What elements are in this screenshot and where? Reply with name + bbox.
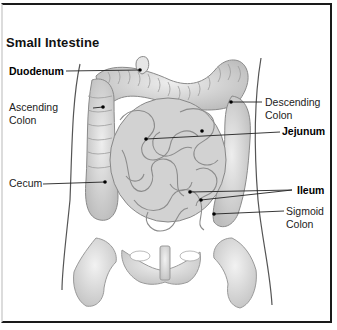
- label-ascending-colon: Ascending Colon: [9, 101, 58, 127]
- label-ascending-colon-line2: Colon: [9, 114, 58, 127]
- label-ileum: Ileum: [297, 184, 324, 197]
- label-descending-colon-line2: Colon: [265, 109, 320, 122]
- label-sigmoid-colon: Sigmoid Colon: [286, 205, 324, 231]
- label-jejunum: Jejunum: [282, 125, 325, 138]
- label-descending-colon: Descending Colon: [265, 96, 320, 122]
- pelvis-bones: [74, 238, 257, 308]
- label-sigmoid-colon-line1: Sigmoid: [286, 205, 324, 218]
- label-sigmoid-colon-line2: Colon: [286, 218, 324, 231]
- label-ascending-colon-line1: Ascending: [9, 101, 58, 114]
- diagram-title: Small Intestine: [6, 35, 99, 50]
- duodenum-stub: [136, 57, 149, 74]
- label-cecum: Cecum: [9, 177, 42, 190]
- label-descending-colon-line1: Descending: [265, 96, 320, 109]
- label-duodenum: Duodenum: [9, 65, 64, 78]
